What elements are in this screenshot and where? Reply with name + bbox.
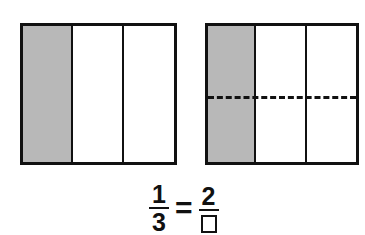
denominator: 3 — [152, 210, 166, 234]
fraction-unknown: 2 — [198, 184, 220, 233]
fraction-one-third: 1 3 — [148, 182, 170, 234]
divider-line — [71, 26, 73, 162]
numerator: 1 — [152, 182, 166, 206]
shaded-sixths — [208, 26, 254, 162]
left-fraction-model — [20, 23, 177, 165]
divider-line — [254, 26, 256, 162]
dashed-divider — [208, 96, 356, 99]
blank-denominator-box[interactable] — [201, 215, 217, 233]
fraction-bar — [199, 209, 219, 211]
equals-sign: = — [175, 193, 193, 223]
divider-line — [122, 26, 124, 162]
shaded-third — [23, 26, 71, 162]
right-fraction-model — [205, 23, 359, 165]
numerator: 2 — [202, 184, 216, 208]
fraction-equation: 1 3 = 2 — [148, 182, 220, 234]
divider-line — [305, 26, 307, 162]
